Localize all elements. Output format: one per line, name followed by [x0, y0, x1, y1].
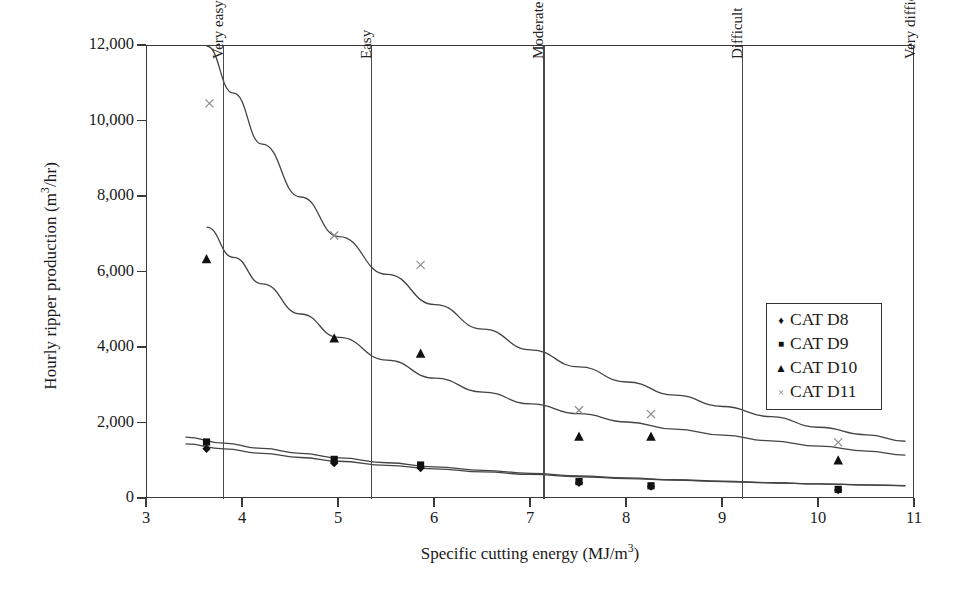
zone-divider	[223, 46, 224, 499]
data-point	[416, 348, 426, 357]
y-axis-tick	[137, 44, 146, 45]
data-point	[202, 254, 212, 263]
x-axis-tick-label: 8	[606, 508, 646, 528]
x-axis-tick-label: 3	[126, 508, 166, 528]
zone-label: Moderate	[530, 2, 547, 59]
data-point	[203, 438, 210, 445]
data-point	[574, 432, 584, 441]
x-axis-tick	[433, 498, 434, 507]
data-point	[647, 410, 655, 418]
legend-item: ♦CAT D8	[773, 308, 874, 332]
data-point	[417, 261, 425, 269]
legend-item: ■CAT D9	[773, 332, 874, 356]
x-axis-tick-label: 9	[702, 508, 742, 528]
data-point	[835, 486, 842, 493]
legend-marker-icon: ×	[773, 387, 789, 398]
x-axis-tick-label: 10	[798, 508, 838, 528]
x-axis-tick	[241, 498, 242, 507]
zone-label: Very difficult	[902, 0, 919, 59]
x-axis-tick	[145, 498, 146, 507]
x-axis-title: Specific cutting energy (MJ/m3)	[146, 542, 914, 564]
zone-divider	[543, 46, 544, 499]
legend-marker-icon: ▲	[773, 362, 789, 374]
y-axis-tick	[137, 422, 146, 423]
data-point	[205, 99, 213, 107]
legend-item-label: CAT D8	[790, 311, 849, 329]
legend-item-label: CAT D11	[790, 383, 857, 401]
x-axis-tick	[721, 498, 722, 507]
x-axis-tick	[913, 498, 914, 507]
legend-item-label: CAT D9	[790, 335, 849, 353]
legend: ♦CAT D8■CAT D9▲CAT D10×CAT D11	[766, 303, 882, 410]
y-axis-tick	[137, 120, 146, 121]
data-point	[331, 456, 338, 463]
x-axis-tick	[625, 498, 626, 507]
x-axis-tick-label: 5	[318, 508, 358, 528]
x-axis-tick	[817, 498, 818, 507]
zone-label: Difficult	[729, 8, 746, 59]
data-point	[330, 232, 338, 240]
legend-marker-icon: ♦	[773, 315, 789, 326]
x-axis-tick-label: 11	[894, 508, 934, 528]
legend-item: ▲CAT D10	[773, 356, 874, 380]
zone-divider	[371, 46, 372, 499]
trend-curve	[185, 444, 905, 486]
data-point	[833, 455, 843, 464]
x-axis-tick	[529, 498, 530, 507]
zone-label: Easy	[358, 30, 375, 59]
data-point	[647, 482, 654, 489]
zone-label: Very easy	[210, 0, 227, 59]
legend-item-label: CAT D10	[790, 359, 857, 377]
y-axis-tick	[137, 271, 146, 272]
y-axis-tick	[137, 195, 146, 196]
data-point	[834, 438, 842, 446]
legend-marker-icon: ■	[773, 339, 789, 349]
x-axis-tick-label: 7	[510, 508, 550, 528]
x-axis-tick-label: 4	[222, 508, 262, 528]
y-axis-tick	[137, 346, 146, 347]
data-point	[417, 461, 424, 468]
plot-area: Very easyEasyModerateDifficultVery diffi…	[146, 45, 914, 498]
x-axis-tick-label: 6	[414, 508, 454, 528]
plot-canvas	[147, 46, 915, 499]
x-axis-tick	[337, 498, 338, 507]
chart-figure: Hourly ripper production (m3/hr) Specifi…	[0, 0, 959, 599]
zone-divider	[742, 46, 743, 499]
data-point	[575, 478, 582, 485]
data-point	[646, 432, 656, 441]
legend-item: ×CAT D11	[773, 380, 874, 404]
